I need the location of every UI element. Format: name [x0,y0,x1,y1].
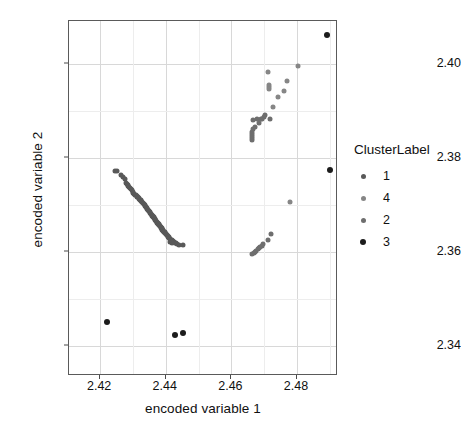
data-point [250,251,255,256]
legend-item-label: 2 [383,213,390,227]
legend-item-label: 4 [383,191,390,205]
y-tick-label: 2.34 [417,338,461,352]
gridline-major-vertical [297,21,298,374]
legend-item[interactable]: 4 [352,187,457,209]
legend-items: 1423 [352,165,457,253]
data-point [295,63,300,68]
scatter-plot-figure: encoded variable 2 2.342.362.382.40 2.42… [0,0,461,426]
gridline-minor-vertical [199,21,200,374]
data-point [275,94,280,99]
data-point [327,167,333,173]
legend-key-icon [352,209,374,231]
plot-panel [68,20,337,375]
legend-item[interactable]: 1 [352,165,457,187]
gridline-major-horizontal [69,158,336,159]
legend-item[interactable]: 3 [352,231,457,253]
legend-item-label: 1 [383,169,390,183]
x-tick-label: 2.46 [200,379,260,393]
legend-dot-icon [361,174,366,179]
x-tick-mark [99,375,100,379]
x-tick-mark [296,375,297,379]
data-point [324,32,330,38]
gridline-minor-vertical [264,21,265,374]
x-tick-label: 2.42 [69,379,129,393]
data-point [281,88,286,93]
gridline-major-horizontal [69,252,336,253]
legend-dot-icon [361,196,366,201]
data-point [180,330,186,336]
legend-dot-icon [360,239,366,245]
legend-key-icon [352,187,374,209]
data-point [270,105,275,110]
x-tick-label: 2.44 [135,379,195,393]
data-point [180,243,185,248]
data-point [269,232,274,237]
legend-item-label: 3 [383,235,390,249]
gridline-minor-vertical [330,21,331,374]
data-point [268,116,273,121]
gridline-major-horizontal [69,346,336,347]
data-point [172,332,178,338]
data-point [266,237,271,242]
data-point [285,79,290,84]
gridline-major-vertical [100,21,101,374]
y-axis-title: encoded variable 2 [30,90,45,290]
legend: ClusterLabel 1423 [352,142,457,253]
y-tick-label: 2.40 [417,56,461,70]
gridline-major-vertical [231,21,232,374]
gridline-minor-horizontal [69,111,336,112]
legend-dot-icon [361,218,366,223]
data-point [288,199,293,204]
legend-key-icon [352,231,374,253]
legend-item[interactable]: 2 [352,209,457,231]
data-point [267,86,272,91]
gridline-major-vertical [166,21,167,374]
gridline-minor-horizontal [69,205,336,206]
data-point [170,240,175,245]
gridline-minor-horizontal [69,299,336,300]
data-point [250,138,255,143]
x-tick-mark [230,375,231,379]
data-point [266,70,271,75]
data-point [250,117,255,122]
legend-title: ClusterLabel [354,142,457,157]
legend-key-icon [352,165,374,187]
data-point [104,319,110,325]
x-tick-label: 2.48 [266,379,326,393]
x-axis-title: encoded variable 1 [68,401,338,416]
x-tick-mark [165,375,166,379]
